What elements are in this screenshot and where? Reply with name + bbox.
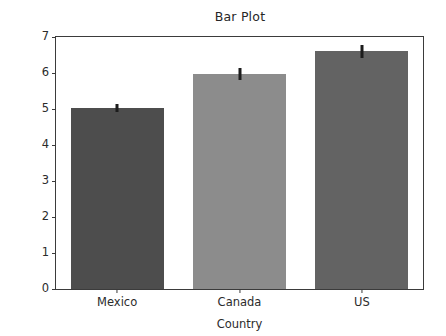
x-tick-label-mexico: Mexico — [97, 297, 137, 309]
bar-canada[interactable] — [193, 74, 286, 289]
y-tick-label: 4 — [42, 139, 49, 151]
y-tick-label: 1 — [42, 247, 49, 259]
x-tick-mark — [239, 289, 240, 293]
y-tick-label: 0 — [42, 283, 49, 295]
bar-chart-figure: Bar Plot 01234567 MexicoCanadaUS Country… — [0, 0, 446, 336]
y-tick-label: 7 — [42, 31, 49, 43]
x-tick-label-us: US — [354, 297, 370, 309]
y-tick-label: 6 — [42, 67, 49, 79]
y-tick-label: 5 — [42, 103, 49, 115]
x-tick-mark — [361, 289, 362, 293]
x-tick-label-canada: Canada — [218, 297, 262, 309]
x-tick-mark — [117, 289, 118, 293]
error-bar-canada — [238, 68, 241, 80]
y-tick-label: 2 — [42, 211, 49, 223]
error-bar-mexico — [116, 104, 119, 113]
y-tick-mark — [52, 289, 56, 290]
error-bar-us — [360, 45, 363, 59]
bar-mexico[interactable] — [71, 108, 164, 289]
plot-area: 01234567 MexicoCanadaUS — [55, 36, 424, 290]
x-axis-label: Country — [55, 317, 424, 331]
y-tick-label: 3 — [42, 175, 49, 187]
chart-title: Bar Plot — [55, 9, 425, 24]
bar-us[interactable] — [315, 51, 408, 289]
bars-layer — [56, 37, 423, 289]
